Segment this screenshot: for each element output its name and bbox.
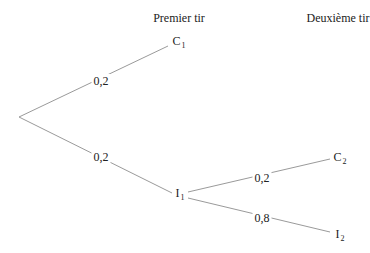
node-c1: C1 xyxy=(172,34,185,53)
node-i2-letter: I xyxy=(336,227,340,241)
node-i1: I1 xyxy=(176,186,185,205)
prob-i1-c2: 0,2 xyxy=(253,171,272,185)
header-first-draw: Premier tir xyxy=(153,11,205,25)
node-c1-letter: C xyxy=(172,34,180,48)
node-i1-letter: I xyxy=(176,186,180,200)
header-second-draw: Deuxième tir xyxy=(307,11,370,25)
prob-root-c1: 0,2 xyxy=(92,74,111,88)
node-c2-letter: C xyxy=(333,150,341,164)
node-i2: I2 xyxy=(336,227,345,246)
node-i1-index: 1 xyxy=(181,193,185,202)
prob-root-i1: 0,2 xyxy=(92,150,111,164)
node-c2: C2 xyxy=(333,150,346,169)
node-c2-index: 2 xyxy=(343,157,347,166)
node-c1-index: 1 xyxy=(182,41,186,50)
node-i2-index: 2 xyxy=(341,234,345,243)
prob-i1-i2: 0,8 xyxy=(253,211,272,225)
